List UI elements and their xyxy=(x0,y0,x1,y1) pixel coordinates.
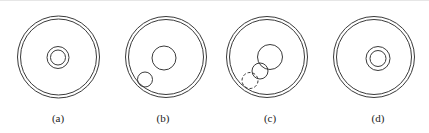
outer-ring-inner xyxy=(21,19,97,95)
panel-label: (d) xyxy=(372,112,385,125)
inner-circle xyxy=(258,45,283,70)
top-border-line xyxy=(0,0,429,1)
panel-d: (d) xyxy=(334,17,415,126)
outer-ring xyxy=(334,17,415,98)
panel-a: (a) xyxy=(18,16,100,125)
outer-ring xyxy=(227,17,308,98)
panel-label: (a) xyxy=(52,112,65,125)
panel-label: (b) xyxy=(157,112,170,125)
panel-c: (c) xyxy=(227,17,308,126)
outer-ring-inner xyxy=(230,20,305,95)
inner-circle xyxy=(152,46,176,70)
diagram-canvas: (a) (b) (c) (d) xyxy=(0,0,429,133)
outer-ring xyxy=(126,17,207,98)
outer-ring-inner xyxy=(337,20,412,95)
inner-circle xyxy=(370,51,386,67)
concentric-circles-figure: (a) (b) (c) (d) xyxy=(0,0,429,133)
inner-circle xyxy=(51,50,66,65)
inner-circle xyxy=(138,72,153,87)
inner-circle xyxy=(252,63,268,79)
outer-ring xyxy=(18,16,100,98)
panel-b: (b) xyxy=(126,17,207,126)
outer-ring-inner xyxy=(129,20,204,95)
dashed-circle xyxy=(242,73,258,89)
panel-label: (c) xyxy=(264,112,277,125)
